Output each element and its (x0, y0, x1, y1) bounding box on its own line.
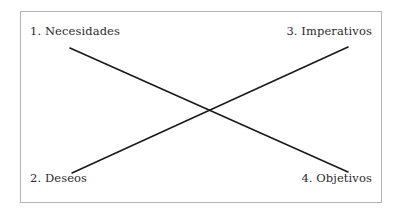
label-deseos: 2. Deseos (30, 172, 87, 185)
label-necesidades: 1. Necesidades (30, 25, 120, 38)
label-objetivos: 4. Objetivos (301, 172, 372, 185)
figure-canvas: 1. Necesidades 3. Imperativos 2. Deseos … (0, 0, 414, 217)
label-imperativos: 3. Imperativos (286, 25, 372, 38)
